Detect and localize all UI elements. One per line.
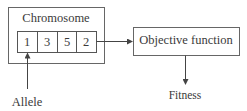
gene-3: 5 <box>57 32 77 52</box>
allele-label: Allele <box>2 96 52 109</box>
fitness-label: Fitness <box>160 90 210 102</box>
ga-diagram: Chromosome 1 3 5 2 Objective function Fi… <box>0 0 247 111</box>
chromosome-title: Chromosome <box>8 12 104 25</box>
gene-2: 3 <box>37 32 57 52</box>
gene-1: 1 <box>17 32 37 52</box>
objective-function-label: Objective function <box>133 34 239 47</box>
gene-4: 2 <box>76 32 96 52</box>
